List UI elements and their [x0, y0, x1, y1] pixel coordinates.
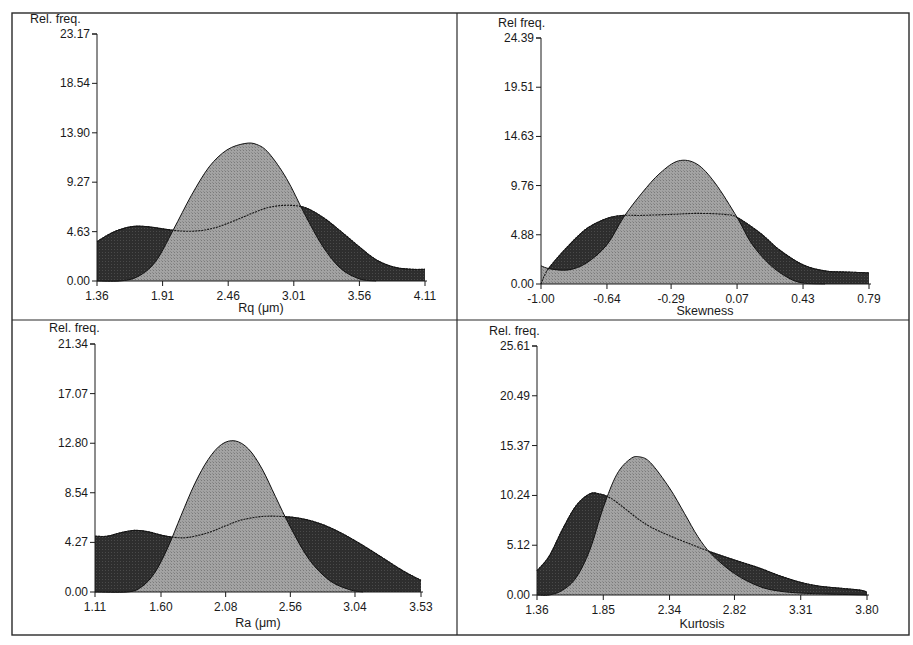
- x-tick-label: 2.34: [658, 603, 682, 617]
- x-axis-title: Rq (μm): [238, 301, 283, 315]
- y-tick-label: 0.00: [507, 588, 531, 602]
- x-tick-label: 1.91: [151, 289, 175, 303]
- x-axis-title: Skewness: [677, 304, 734, 318]
- y-tick-label: 23.17: [60, 27, 90, 41]
- x-tick-label: 3.53: [409, 600, 433, 614]
- x-tick-label: 0.79: [857, 292, 881, 306]
- y-tick-label: 10.24: [500, 488, 530, 502]
- y-tick-label: 20.49: [500, 389, 530, 403]
- y-tick-label: 14.63: [504, 129, 534, 143]
- x-tick-label: -0.64: [593, 292, 621, 306]
- x-tick-label: 3.56: [348, 289, 372, 303]
- chart-panel-skewness: 0.004.889.7614.6319.5124.39-1.00-0.64-0.…: [498, 16, 881, 318]
- y-axis-title: Rel. freq.: [49, 321, 100, 335]
- x-tick-label: 2.46: [217, 289, 241, 303]
- y-tick-label: 8.54: [65, 486, 89, 500]
- y-tick-label: 19.51: [504, 80, 534, 94]
- y-tick-label: 4.88: [511, 228, 535, 242]
- y-tick-label: 24.39: [504, 31, 534, 45]
- y-axis-title: Rel. freq.: [30, 12, 81, 26]
- y-tick-label: 12.80: [58, 436, 88, 450]
- x-tick-label: 1.36: [525, 603, 549, 617]
- y-tick-label: 9.27: [67, 175, 91, 189]
- y-tick-label: 5.12: [507, 538, 531, 552]
- chart-panel-rq: 0.004.639.2713.9018.5423.171.361.912.463…: [30, 12, 437, 315]
- x-tick-label: 1.60: [149, 600, 173, 614]
- y-tick-label: 15.37: [500, 439, 530, 453]
- y-tick-label: 25.61: [500, 339, 530, 353]
- x-tick-label: 1.11: [84, 600, 107, 614]
- y-tick-label: 18.54: [60, 76, 90, 90]
- y-axis-title: Rel. freq.: [489, 324, 540, 338]
- x-tick-label: -1.00: [527, 292, 555, 306]
- figure-canvas: 0.004.639.2713.9018.5423.171.361.912.463…: [0, 0, 913, 645]
- x-axis-title: Kurtosis: [679, 617, 724, 631]
- y-tick-label: 0.00: [511, 277, 535, 291]
- chart-panel-ra: 0.004.278.5412.8017.0721.341.111.602.082…: [49, 321, 433, 630]
- y-tick-label: 13.90: [60, 126, 90, 140]
- x-tick-label: 2.82: [723, 603, 747, 617]
- x-tick-label: 1.36: [85, 289, 109, 303]
- x-tick-label: 4.11: [414, 289, 437, 303]
- y-tick-label: 17.07: [58, 387, 88, 401]
- y-tick-label: 4.63: [67, 225, 91, 239]
- y-tick-label: 4.27: [65, 535, 89, 549]
- x-tick-label: 2.56: [279, 600, 303, 614]
- y-tick-label: 21.34: [58, 337, 88, 351]
- x-tick-label: 3.80: [855, 603, 879, 617]
- x-tick-label: 1.85: [592, 603, 616, 617]
- x-tick-label: 3.04: [343, 600, 367, 614]
- x-tick-label: 0.43: [791, 292, 815, 306]
- y-tick-label: 0.00: [67, 274, 91, 288]
- y-axis-title: Rel freq.: [498, 16, 545, 30]
- x-tick-label: 2.08: [214, 600, 238, 614]
- y-tick-label: 0.00: [65, 585, 89, 599]
- x-tick-label: 3.31: [789, 603, 813, 617]
- y-tick-label: 9.76: [511, 179, 535, 193]
- chart-panel-kurtosis: 0.005.1210.2415.3720.4925.611.361.852.34…: [489, 324, 879, 631]
- x-tick-label: 3.01: [282, 289, 306, 303]
- x-axis-title: Ra (μm): [235, 616, 280, 630]
